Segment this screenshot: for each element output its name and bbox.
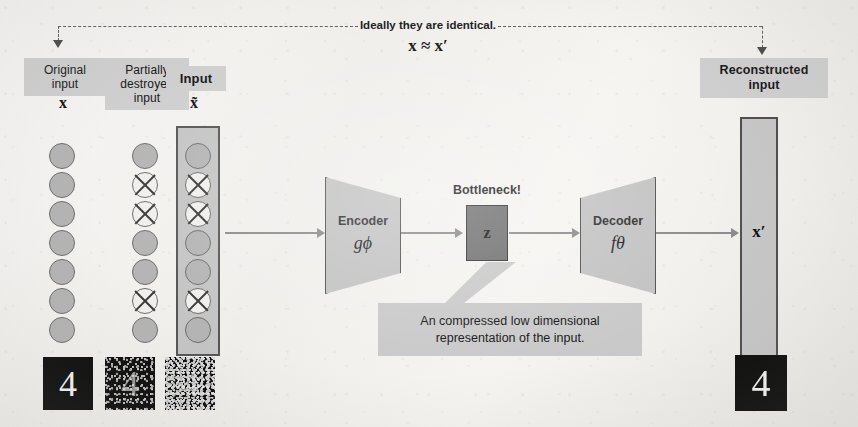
arrow-input-to-encoder-line <box>225 232 318 234</box>
arrow-bottleneck-to-decoder-line <box>509 232 573 234</box>
arrow-decoder-to-reconstructed-head <box>731 228 739 238</box>
bottleneck-symbol: z <box>467 223 507 243</box>
symbol-x-prime: x′ <box>740 222 778 242</box>
node-input-7 <box>185 317 211 343</box>
digit-tile-reconstructed: 4 <box>735 355 787 411</box>
node-input-2 <box>185 172 211 198</box>
decoder-function: fθ <box>581 233 655 254</box>
equation-x-approx-xprime: x ≈ x′ <box>356 36 500 56</box>
dashed-stub-right <box>762 26 763 48</box>
chip-original-input-line2: input <box>52 77 79 91</box>
dashed-stub-left <box>58 26 59 41</box>
dashed-line-right <box>498 26 762 27</box>
dashed-line-left <box>58 26 358 27</box>
digit-tile-original: 4 <box>43 357 93 410</box>
decoder-label: Decoder <box>581 214 655 228</box>
node-destroyed-5 <box>132 259 158 285</box>
node-original-6 <box>49 288 75 314</box>
chip-partially-destroyed-line3: input <box>134 91 161 105</box>
node-original-7 <box>49 317 75 343</box>
node-destroyed-1 <box>132 143 158 169</box>
node-input-5 <box>185 259 211 285</box>
digit-noisy-glyph: 4 <box>105 357 155 410</box>
decoder-shape: Decoder fθ <box>580 177 656 294</box>
digit-tile-very-noisy: 4 <box>165 357 215 410</box>
dashed-arrow-to-original-input <box>53 40 63 48</box>
node-destroyed-2 <box>132 172 158 198</box>
digit-original-glyph: 4 <box>43 357 93 410</box>
node-destroyed-4 <box>132 230 158 256</box>
arrow-decoder-to-reconstructed-line <box>656 232 732 234</box>
annotation-box: An compressed low dimensional representa… <box>378 303 642 356</box>
node-destroyed-6 <box>132 288 158 314</box>
node-destroyed-7 <box>132 317 158 343</box>
arrow-encoder-to-bottleneck-line <box>401 232 456 234</box>
digit-very-noisy-glyph: 4 <box>165 357 215 410</box>
arrow-input-to-encoder-head <box>317 228 325 238</box>
node-original-1 <box>49 143 75 169</box>
chip-reconstructed-input: Reconstructed input <box>700 58 828 98</box>
diagram-canvas: Ideally they are identical. x ≈ x′ Origi… <box>0 0 858 427</box>
node-input-6 <box>185 288 211 314</box>
bottleneck-box: z <box>466 205 508 261</box>
annotation-line2: representation of the input. <box>436 331 585 345</box>
node-original-3 <box>49 201 75 227</box>
arrow-bottleneck-to-decoder-head <box>572 228 580 238</box>
chip-original-input-line1: Original <box>44 63 86 77</box>
symbol-x: x <box>24 94 102 112</box>
chip-reconstructed-line1: Reconstructed <box>720 63 809 77</box>
chip-input: Input <box>166 66 226 91</box>
node-original-4 <box>49 230 75 256</box>
arrow-encoder-to-bottleneck-head <box>455 228 463 238</box>
encoder-label: Encoder <box>326 214 400 228</box>
chip-original-input: Original input <box>24 58 106 96</box>
bottleneck-title: Bottleneck! <box>427 183 547 197</box>
node-original-2 <box>49 172 75 198</box>
digit-tile-noisy: 4 <box>105 357 155 410</box>
dashed-arrow-to-reconstructed-input <box>757 47 767 55</box>
chip-partially-destroyed-line1: Partially <box>125 63 169 77</box>
digit-reconstructed-glyph: 4 <box>735 355 787 411</box>
node-destroyed-3 <box>132 201 158 227</box>
node-input-3 <box>185 201 211 227</box>
node-input-1 <box>185 143 211 169</box>
node-original-5 <box>49 259 75 285</box>
encoder-shape: Encoder gϕ <box>325 177 401 294</box>
encoder-function: gϕ <box>326 233 400 254</box>
node-input-4 <box>185 230 211 256</box>
ideally-identical-note: Ideally they are identical. <box>356 19 500 31</box>
chip-reconstructed-line2: input <box>748 78 779 92</box>
symbol-x-tilde: x̃ <box>166 94 222 112</box>
annotation-line1: An compressed low dimensional <box>420 314 599 328</box>
